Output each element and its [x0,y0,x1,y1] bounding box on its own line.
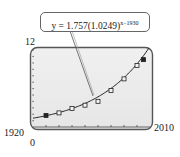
y-min-label: 0 [30,137,35,148]
y-max-label: 12 [25,36,35,47]
x-max-label: 2010 [154,122,174,133]
data-point [57,111,61,115]
equation-text: y = 1.757(1.0249) [51,21,120,31]
equation-callout: y = 1.757(1.0249)x−1930 [40,12,150,32]
data-point [83,103,87,107]
data-point [135,63,139,67]
data-point [122,77,126,81]
data-point [142,58,146,62]
data-point [96,99,100,103]
data-point [44,113,48,117]
equation-exponent: x−1930 [120,20,138,26]
data-point [109,88,113,92]
data-point [70,106,74,110]
x-min-label: 1920 [4,127,24,138]
